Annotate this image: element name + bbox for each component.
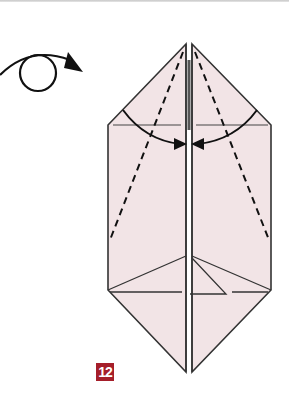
step-number-badge: 12 bbox=[96, 363, 114, 381]
center-seam bbox=[186, 44, 192, 372]
model-left-half bbox=[108, 44, 186, 372]
turn-over-icon bbox=[0, 52, 83, 91]
origami-diagram bbox=[0, 0, 289, 401]
model-right-half bbox=[192, 44, 271, 372]
